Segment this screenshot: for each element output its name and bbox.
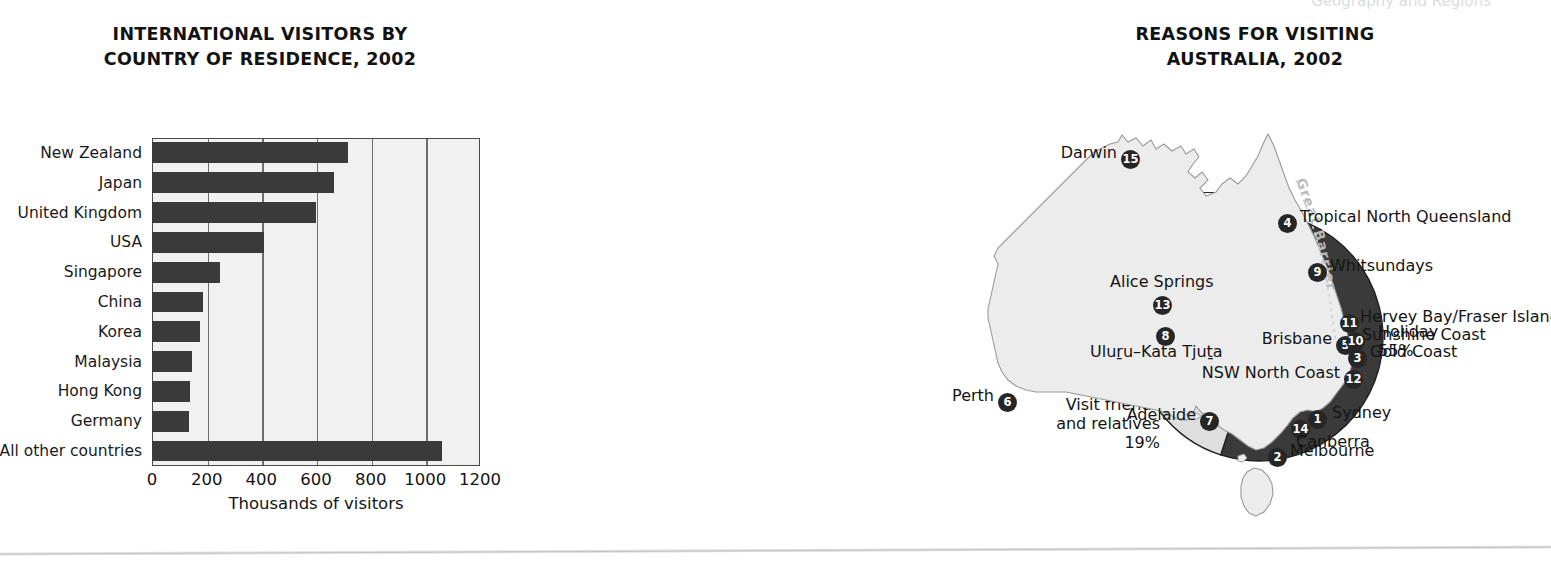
bar-chart-x-tick-label: 0 [147, 470, 158, 489]
bar-chart-category-label: Japan [0, 168, 148, 198]
bar-chart-row [152, 138, 480, 168]
bar-chart-row [152, 347, 480, 377]
bar-chart-category-labels: New ZealandJapanUnited KingdomUSASingapo… [0, 138, 148, 466]
bar-chart-x-tick-label: 1000 [404, 470, 446, 489]
ghost-header-text: Geography and Regions [1311, 0, 1491, 10]
bar-chart-category-label: All other countries [0, 436, 148, 466]
bar-chart-category-label: Germany [0, 406, 148, 436]
bar-chart-bar [152, 232, 264, 253]
bar-chart-row [152, 287, 480, 317]
tasmania-shape [1241, 468, 1273, 516]
pie-chart-panel: REASONS FOR VISITING AUSTRALIA, 2002 Wor… [520, 0, 950, 565]
bass-strait-islet [1238, 454, 1247, 462]
bar-chart-panel: INTERNATIONAL VISITORS BY COUNTRY OF RES… [0, 0, 520, 565]
bar-chart-title-line1: INTERNATIONAL VISITORS BY [113, 24, 408, 44]
bar-chart-bar [152, 411, 189, 432]
bar-chart-bar [152, 142, 348, 163]
bar-chart-bar [152, 321, 200, 342]
map-label-tropical-north-queensland: Tropical North Queensland [1300, 207, 1511, 226]
bar-chart-category-label: Malaysia [0, 347, 148, 377]
bar-chart-category-label: United Kingdom [0, 198, 148, 228]
page-header-ghost-strip: Geography and Regions [0, 0, 1551, 10]
map-pin-sydney[interactable]: 1 [1308, 410, 1327, 429]
bar-chart-category-label: China [0, 287, 148, 317]
map-label-gold-coast: Gold Coast [1370, 342, 1457, 361]
bar-chart-bar [152, 381, 190, 402]
map-label-sunshine-coast: Sunshine Coast [1362, 325, 1486, 344]
bar-chart-title: INTERNATIONAL VISITORS BY COUNTRY OF RES… [0, 22, 520, 73]
map-pin-adelaide[interactable]: 7 [1200, 412, 1219, 431]
map-label-sydney: Sydney [1332, 403, 1391, 422]
map-pin-nsw-north-coast[interactable]: 12 [1344, 370, 1363, 389]
map-label-canberra: Canberra [1296, 432, 1370, 451]
map-label-nsw-north-coast: NSW North Coast [950, 363, 1340, 382]
bar-chart-x-tick-label: 1200 [459, 470, 501, 489]
bar-chart-category-label: Korea [0, 317, 148, 347]
bar-chart-category-label: USA [0, 227, 148, 257]
bar-chart-bar [152, 262, 220, 283]
map-label-alice-springs: Alice Springs [1110, 272, 1214, 291]
bar-chart-x-tick-label: 600 [300, 470, 332, 489]
bar-chart-bar [152, 172, 334, 193]
bar-chart-row [152, 317, 480, 347]
bar-chart-row [152, 406, 480, 436]
bar-chart-category-label: Singapore [0, 257, 148, 287]
map-pin-alice-springs[interactable]: 13 [1153, 296, 1172, 315]
bar-chart-category-label: New Zealand [0, 138, 148, 168]
map-pin-whitsundays[interactable]: 9 [1308, 263, 1327, 282]
bar-chart-row [152, 377, 480, 407]
bar-chart-row [152, 198, 480, 228]
bar-chart-x-tick-label: 200 [191, 470, 223, 489]
map-label-perth: Perth [950, 386, 994, 405]
bar-chart-row [152, 168, 480, 198]
bar-chart-x-axis-ticks: 020040060080010001200 [152, 470, 480, 492]
map-pin-darwin[interactable]: 15 [1121, 150, 1140, 169]
map-label-adelaide: Adelaide [950, 405, 1196, 424]
bar-chart-x-tick-label: 400 [246, 470, 278, 489]
map-label-whitsundays: Whitsundays [1330, 256, 1433, 275]
bar-chart-row [152, 436, 480, 466]
map-label-ulu-u-kata-tju-a: Uluṟu–Kata Tjuṯa [1090, 342, 1223, 361]
bar-chart-x-tick-label: 800 [355, 470, 387, 489]
map-pin-melbourne[interactable]: 2 [1268, 448, 1287, 467]
bar-chart-row [152, 257, 480, 287]
bar-chart-title-line2: COUNTRY OF RESIDENCE, 2002 [104, 49, 416, 69]
bar-chart-bar [152, 351, 192, 372]
australia-map: Great Barrier Reef 1Sydney2Melbourne3Gol… [950, 120, 1551, 540]
bar-chart-bars [152, 138, 480, 466]
bar-chart-row [152, 227, 480, 257]
map-pin-tropical-north-queensland[interactable]: 4 [1278, 214, 1297, 233]
map-label-darwin: Darwin [950, 143, 1117, 162]
bar-chart-bar [152, 441, 442, 462]
bar-chart-x-axis-label: Thousands of visitors [152, 494, 480, 513]
map-panel: TOP 15 REGIONS VISITED BY INTERNATIONAL … [950, 0, 1551, 565]
bar-chart-bar [152, 292, 203, 313]
map-pin-hervey-bay-fraser-island[interactable]: 11 [1340, 314, 1359, 333]
bar-chart-category-label: Hong Kong [0, 377, 148, 407]
map-label-hervey-bay-fraser-island: Hervey Bay/Fraser Island [1360, 307, 1551, 326]
bar-chart-bar [152, 202, 316, 223]
